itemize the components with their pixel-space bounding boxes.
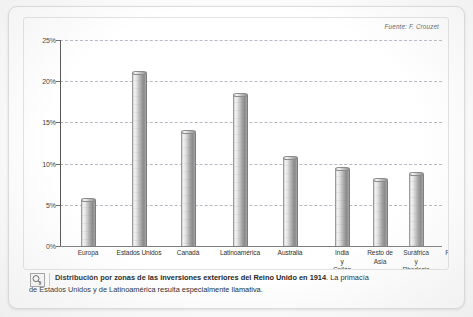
chart-plot-area: Fuente: F. Crouzet 0%5%10%15%20%25% Euro…: [23, 17, 449, 270]
y-axis-tick-label: 20%: [42, 78, 56, 85]
x-axis-tick-label: Canadá: [158, 249, 218, 258]
x-axis-tick-label: Resto deÁfrica: [428, 249, 449, 266]
x-axis-line: [60, 246, 442, 247]
bar-body: [283, 158, 298, 246]
y-axis-tick-label: 5%: [46, 201, 56, 208]
x-axis-tick-label: Australia: [260, 249, 320, 258]
bar: [335, 169, 350, 246]
y-axis-tick-label: 10%: [42, 160, 56, 167]
caption-bold-title: Distribución por zonas de las inversione…: [55, 273, 326, 282]
bar-body: [233, 95, 248, 246]
bar-body: [181, 132, 196, 246]
figure-card: Fuente: F. Crouzet 0%5%10%15%20%25% Euro…: [8, 6, 465, 309]
caption-rest: . La primacía: [326, 273, 369, 282]
bar-body: [81, 200, 96, 246]
caption-line-2: de Estados Unidos y de Latinoamérica res…: [29, 284, 445, 295]
caption-line-1: Distribución por zonas de las inversione…: [55, 272, 445, 283]
bar-body: [409, 174, 424, 246]
y-axis-tick-label: 0%: [46, 243, 56, 250]
bar: [132, 73, 147, 246]
figure-page: Fuente: F. Crouzet 0%5%10%15%20%25% Euro…: [0, 0, 473, 317]
bar: [409, 174, 424, 246]
bar: [283, 158, 298, 246]
x-axis-labels: EuropaEstados UnidosCanadáLatinoaméricaA…: [60, 249, 442, 270]
bar-body: [132, 73, 147, 246]
bar-body: [373, 180, 388, 246]
bar: [233, 95, 248, 246]
y-axis-tick-label: 25%: [42, 37, 56, 44]
bar: [373, 180, 388, 246]
y-axis-tick-label: 15%: [42, 119, 56, 126]
bar-body: [335, 169, 350, 246]
bar: [181, 132, 196, 246]
bar: [81, 200, 96, 246]
figure-caption: 2 Distribución por zonas de las inversio…: [23, 275, 449, 303]
y-axis-labels: 0%5%10%15%20%25%: [28, 18, 56, 269]
bar-series: [60, 40, 442, 246]
